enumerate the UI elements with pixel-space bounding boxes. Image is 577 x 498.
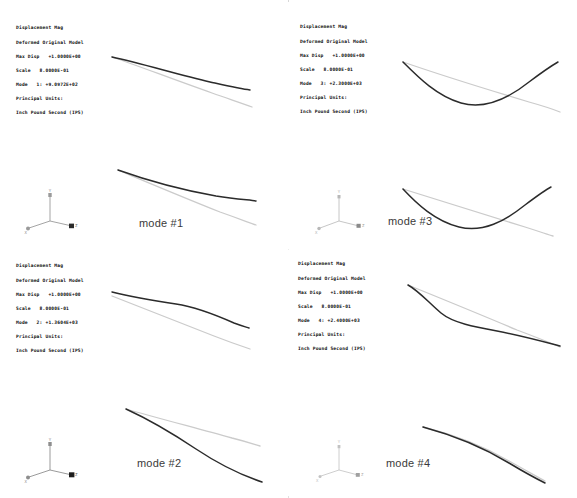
panel-mode-2[interactable]: Displacement Mag Deformed Original Model… xyxy=(0,249,288,498)
legend-line-units-header: Principal Units: xyxy=(16,335,84,340)
legend-line-title: Displacement Mag xyxy=(16,26,84,31)
axis-label-y: Y xyxy=(338,189,341,194)
legend-line-model: Deformed Original Model xyxy=(16,41,84,46)
legend-line-scale: Scale 8.0000E-01 xyxy=(300,68,368,73)
undeformed-curve-upper xyxy=(403,62,560,112)
undeformed-curve-lower xyxy=(403,189,553,236)
axis-label-y: Y xyxy=(49,188,52,193)
legend-line-model: Deformed Original Model xyxy=(298,277,366,282)
plot-sheet: Displacement Mag Deformed Original Model… xyxy=(0,0,577,498)
legend-line-mode: Mode 4: +2.4000E+03 xyxy=(298,319,366,324)
deformed-curve-upper xyxy=(408,285,560,346)
deformed-curve-lower xyxy=(118,170,256,201)
legend-block-mode-4: Displacement Mag Deformed Original Model… xyxy=(298,253,366,361)
panel-caption-mode-1: mode #1 xyxy=(139,217,183,229)
axis-label-z: Z xyxy=(75,472,78,477)
axis-label-x: X xyxy=(25,479,28,484)
axis-label-z: Z xyxy=(362,223,365,228)
axis-label-z: Z xyxy=(361,472,364,477)
axis-label-z: Z xyxy=(75,223,78,228)
axis-triad-icon-2: Y X Z xyxy=(22,434,82,486)
axis-triad-icon-3: Y X Z xyxy=(311,185,371,237)
axis-label-y: Y xyxy=(338,439,341,444)
legend-line-title: Displacement Mag xyxy=(298,262,366,267)
legend-line-units: Inch Pound Second (IPS) xyxy=(16,349,84,354)
panel-caption-mode-2: mode #2 xyxy=(137,457,181,469)
legend-block-mode-1: Displacement Mag Deformed Original Model… xyxy=(16,17,84,125)
legend-line-maxdisp: Max Disp +1.0000E+00 xyxy=(16,293,84,298)
legend-line-units: Inch Pound Second (IPS) xyxy=(16,111,84,116)
deformed-curve-lower xyxy=(423,427,545,483)
legend-line-mode: Mode 2: +1.3604E+03 xyxy=(16,321,84,326)
legend-line-mode: Mode 1: +9.0972E+02 xyxy=(16,83,84,88)
axis-triad-icon-1: Y X Z xyxy=(22,185,82,237)
axis-label-x: X xyxy=(316,478,319,483)
legend-line-maxdisp: Max Disp +1.0000E+00 xyxy=(16,55,84,60)
legend-line-scale: Scale 8.0000E-01 xyxy=(298,305,366,310)
legend-block-mode-2: Displacement Mag Deformed Original Model… xyxy=(16,255,84,363)
legend-line-units: Inch Pound Second (IPS) xyxy=(298,347,366,352)
deformed-curve-upper xyxy=(112,57,250,90)
deformed-curve-lower xyxy=(126,409,262,482)
axis-label-y: Y xyxy=(49,437,52,442)
legend-line-units-header: Principal Units: xyxy=(298,333,366,338)
undeformed-curve-lower xyxy=(423,427,545,481)
legend-line-maxdisp: Max Disp +1.0000E+00 xyxy=(298,291,366,296)
legend-line-maxdisp: Max Disp +1.0000E+00 xyxy=(300,54,368,59)
panel-mode-3[interactable]: Displacement Mag Deformed Original Model… xyxy=(289,0,577,249)
deformed-curve-upper xyxy=(403,62,558,105)
legend-line-units-header: Principal Units: xyxy=(300,96,368,101)
axis-label-x: X xyxy=(315,230,318,235)
panel-mode-1[interactable]: Displacement Mag Deformed Original Model… xyxy=(0,0,288,249)
legend-line-units: Inch Pound Second (IPS) xyxy=(300,110,368,115)
legend-line-units-header: Principal Units: xyxy=(16,97,84,102)
panel-caption-mode-4: mode #4 xyxy=(386,457,430,469)
undeformed-curve-upper xyxy=(112,296,250,349)
undeformed-curve-lower xyxy=(126,409,260,446)
deformed-curve-upper xyxy=(112,292,249,328)
legend-line-mode: Mode 3: +2.3000E+03 xyxy=(300,82,368,87)
legend-line-scale: Scale 8.0000E-01 xyxy=(16,307,84,312)
undeformed-curve-upper xyxy=(408,285,560,347)
legend-line-title: Displacement Mag xyxy=(300,25,368,30)
undeformed-curve-upper xyxy=(112,57,252,107)
panel-caption-mode-3: mode #3 xyxy=(388,215,432,227)
legend-line-scale: Scale 8.0000E-01 xyxy=(16,69,84,74)
axis-triad-icon-4: Y X Z xyxy=(311,434,371,486)
legend-line-model: Deformed Original Model xyxy=(300,40,368,45)
panel-mode-4[interactable]: Displacement Mag Deformed Original Model… xyxy=(289,249,577,498)
legend-block-mode-3: Displacement Mag Deformed Original Model… xyxy=(300,16,368,124)
legend-line-title: Displacement Mag xyxy=(16,264,84,269)
axis-label-x: X xyxy=(25,230,28,235)
legend-line-model: Deformed Original Model xyxy=(16,279,84,284)
